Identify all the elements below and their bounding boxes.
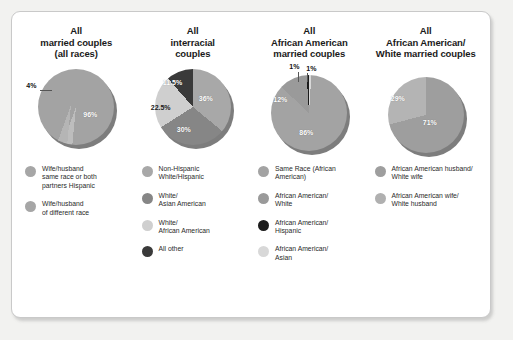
legend-3: Same Race (African American) African Ame… — [254, 165, 365, 272]
slice-label-1-hispanic: 1% — [289, 63, 299, 70]
legend-item[interactable]: Non-Hispanic White/Hispanic — [142, 165, 249, 182]
legend-swatch — [25, 166, 36, 177]
legend-swatch — [142, 220, 153, 231]
legend-swatch — [142, 193, 153, 204]
legend-item[interactable]: White/ Asian American — [142, 192, 249, 209]
chart-card: All married couples (all races) 96% 4% W… — [11, 11, 491, 318]
slice-label-22-5: 22.5% — [151, 104, 171, 111]
legend-item[interactable]: African American wife/ White husband — [375, 192, 482, 209]
legend-item[interactable]: African American/ White — [258, 192, 365, 209]
slice-label-30: 30% — [177, 126, 191, 133]
pie-chart-1: 96% 4% — [20, 63, 132, 151]
pie-slices — [388, 77, 464, 153]
leader-line-1-hispanic — [298, 72, 299, 82]
slice-label-1-asian: 1% — [306, 65, 316, 72]
slice-label-4: 4% — [26, 82, 36, 89]
legend-1: Wife/husband same race or both partners … — [21, 165, 132, 227]
panel-title: All interracial couples — [171, 25, 215, 61]
legend-item[interactable]: All other — [142, 245, 249, 257]
legend-label: Wife/husband same race or both partners … — [42, 165, 97, 190]
legend-label: African American wife/ White husband — [392, 192, 459, 209]
legend-item[interactable]: African American husband/ White wife — [375, 165, 482, 182]
legend-swatch — [258, 166, 269, 177]
legend-label: African American/ Hispanic — [275, 219, 328, 236]
legend-label: White/ African American — [159, 219, 210, 236]
slice-label-86: 86% — [299, 129, 313, 136]
legend-swatch — [375, 166, 386, 177]
legend-swatch — [375, 193, 386, 204]
pie-panel-interracial-couples: All interracial couples 36% 30% 22.5% 11… — [135, 25, 252, 267]
pie-chart-panels: All married couples (all races) 96% 4% W… — [12, 12, 490, 317]
pie-graphic — [38, 69, 114, 145]
legend-label: African American husband/ White wife — [392, 165, 473, 182]
legend-swatch — [258, 246, 269, 257]
legend-swatch — [142, 166, 153, 177]
legend-label: African American/ White — [275, 192, 328, 209]
panel-title: All married couples (all races) — [40, 25, 112, 61]
pie-chart-4: 71% 29% — [370, 63, 482, 151]
legend-label: Non-Hispanic White/Hispanic — [159, 165, 204, 182]
legend-2: Non-Hispanic White/Hispanic White/ Asian… — [138, 165, 249, 267]
legend-swatch — [142, 246, 153, 257]
legend-swatch — [25, 201, 36, 212]
legend-label: Same Race (African American) — [275, 165, 336, 182]
slice-label-29: 29% — [391, 95, 405, 102]
legend-swatch — [258, 193, 269, 204]
leader-line-4 — [40, 90, 52, 91]
legend-4: African American husband/ White wife Afr… — [371, 165, 482, 219]
pie-graphic — [271, 75, 347, 151]
legend-label: White/ Asian American — [159, 192, 206, 209]
pie-chart-2: 36% 30% 22.5% 11.5% — [137, 63, 249, 151]
panel-title: All African American/ White married coup… — [376, 25, 476, 61]
slice-label-36: 36% — [199, 95, 213, 102]
panel-title: All African American married couples — [271, 25, 348, 61]
pie-exploded-slice — [33, 67, 109, 143]
legend-item[interactable]: Wife/husband of different race — [25, 200, 132, 217]
slice-label-71: 71% — [423, 119, 437, 126]
legend-label: African American/ Asian — [275, 245, 328, 262]
pie-slices — [271, 75, 347, 151]
legend-label: All other — [159, 245, 184, 253]
legend-item[interactable]: White/ African American — [142, 219, 249, 236]
pie-chart-3: 86% 12% 1% 1% — [253, 63, 365, 151]
pie-panel-african-american-married-couples: All African American married couples 86%… — [251, 25, 368, 272]
legend-item[interactable]: African American/ Hispanic — [258, 219, 365, 236]
legend-label: Wife/husband of different race — [42, 200, 89, 217]
pie-graphic — [388, 77, 464, 153]
legend-swatch — [258, 220, 269, 231]
pie-panel-african-american-white-married-couples: All African American/ White married coup… — [368, 25, 485, 219]
legend-item[interactable]: African American/ Asian — [258, 245, 365, 262]
leader-line-1-asian — [307, 73, 308, 82]
legend-item[interactable]: Wife/husband same race or both partners … — [25, 165, 132, 190]
slice-label-96: 96% — [83, 111, 97, 118]
slice-label-11-5: 11.5% — [163, 79, 182, 86]
slice-label-12: 12% — [273, 96, 287, 103]
pie-panel-married-couples-all-races: All married couples (all races) 96% 4% W… — [18, 25, 135, 227]
legend-item[interactable]: Same Race (African American) — [258, 165, 365, 182]
